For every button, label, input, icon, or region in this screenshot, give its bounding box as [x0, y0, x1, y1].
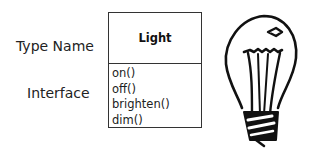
method-item: dim() [112, 113, 201, 129]
class-box: Light on() off() brighten() dim() [108, 12, 202, 128]
interface-label: Interface [27, 85, 90, 101]
lightbulb-icon [222, 12, 302, 152]
method-list: on() off() brighten() dim() [109, 64, 201, 128]
class-title: Light [138, 31, 171, 45]
class-header: Light [109, 13, 201, 64]
method-item: off() [112, 82, 201, 98]
type-name-label: Type Name [16, 38, 94, 54]
method-item: on() [112, 66, 201, 82]
method-item: brighten() [112, 97, 201, 113]
